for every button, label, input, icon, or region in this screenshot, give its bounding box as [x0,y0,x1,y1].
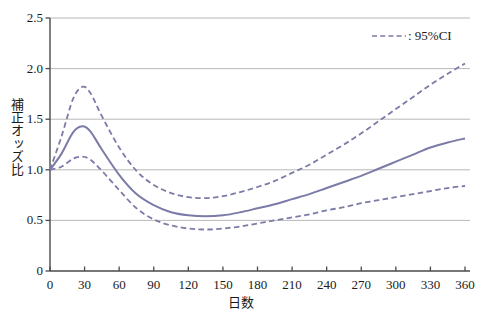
x-tick-label: 360 [445,278,482,291]
series-line-0 [50,126,465,216]
x-axis-label: 日数 [0,292,482,311]
series-line-2 [50,157,465,230]
data-series-paths [50,64,465,230]
axis-lines [50,18,470,271]
y-tick-label: 0.5 [0,213,43,226]
series-line-1 [50,64,465,199]
y-tick-label: 2.0 [0,62,43,75]
y-tick-label: 1.0 [0,163,43,176]
figure-container: 補正オッズ比 日数 00.51.01.52.02.5 0306090120150… [0,0,482,315]
y-tick-label: 0 [0,264,43,277]
y-tick-label: 1.5 [0,112,43,125]
legend-label-95ci: : 95%CI [408,28,452,44]
chart-legend: : 95%CI [372,28,452,44]
gridlines [50,18,470,220]
y-tick-label: 2.5 [0,11,43,24]
legend-dashed-line-icon [372,30,406,42]
chart-plot-area [0,0,482,315]
